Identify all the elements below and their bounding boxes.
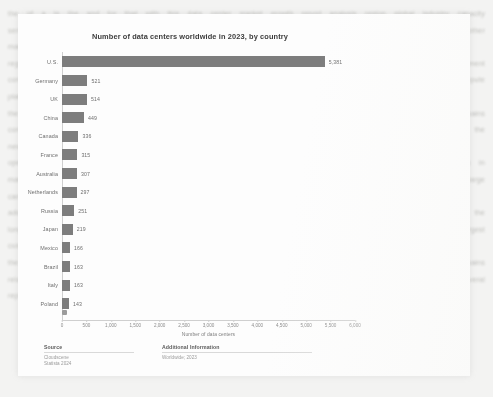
category-label: Netherlands <box>28 189 58 195</box>
bar <box>62 261 70 272</box>
bar-value-label: 336 <box>82 133 91 139</box>
additional-information-line-0: Worldwide; 2023 <box>162 355 312 361</box>
x-axis-tick: 2,000 <box>154 323 166 328</box>
x-axis-tick: 4,500 <box>276 323 288 328</box>
bar <box>62 242 70 253</box>
bar-row: Canada336 <box>62 127 91 145</box>
source-block: Source Cloudscene Statista 2024 <box>44 344 134 367</box>
bar <box>62 112 84 123</box>
category-label: Russia <box>41 208 58 214</box>
category-label: UK <box>50 96 58 102</box>
x-axis-tick: 1,500 <box>130 323 142 328</box>
chart-footer: Source Cloudscene Statista 2024 Addition… <box>44 344 454 374</box>
bar-value-label: 219 <box>77 226 86 232</box>
x-axis-tick: 5,500 <box>325 323 337 328</box>
category-label: Mexico <box>40 245 58 251</box>
category-label: China <box>43 115 58 121</box>
bar <box>62 168 77 179</box>
bar-value-label: 5,381 <box>329 59 342 65</box>
bar-value-label: 166 <box>74 245 83 251</box>
bar-value-label: 521 <box>91 78 100 84</box>
x-axis-tick: 4,000 <box>252 323 264 328</box>
bar <box>62 94 87 105</box>
category-label: U.S. <box>47 59 58 65</box>
bar-row: Brazil163 <box>62 258 83 276</box>
bar-chart-plot-area: U.S.5,381Germany521UK514China449Canada33… <box>62 52 355 320</box>
bar-row: Australia307 <box>62 165 90 183</box>
bar <box>62 187 77 198</box>
x-axis-tick: 1,000 <box>105 323 117 328</box>
category-label: Poland <box>41 301 58 307</box>
bar-value-label: 251 <box>78 208 87 214</box>
bar <box>62 149 77 160</box>
bar-value-label: 514 <box>91 96 100 102</box>
bar <box>62 224 73 235</box>
x-axis-label: Number of data centers <box>62 332 355 337</box>
bar <box>62 75 87 86</box>
bar-row: UK514 <box>62 90 100 108</box>
bar-row: China449 <box>62 109 97 127</box>
bar-row: Netherlands297 <box>62 183 89 201</box>
category-label: Brazil <box>44 264 58 270</box>
bar <box>62 205 74 216</box>
bar-row: Mexico166 <box>62 239 83 257</box>
category-label: France <box>41 152 58 158</box>
bar <box>62 280 70 291</box>
bar <box>62 56 325 67</box>
category-label: Germany <box>35 78 58 84</box>
source-heading: Source <box>44 344 134 353</box>
bar-value-label: 307 <box>81 171 90 177</box>
bar-row: Japan219 <box>62 220 86 238</box>
chart-title: Number of data centers worldwide in 2023… <box>92 32 288 41</box>
bar-row: Italy163 <box>62 276 83 294</box>
bar-value-label: 449 <box>88 115 97 121</box>
x-axis-tick: 3,000 <box>203 323 215 328</box>
bar <box>62 298 69 309</box>
bar-row: U.S.5,381 <box>62 53 342 71</box>
x-axis-tick: 3,500 <box>227 323 239 328</box>
category-label: Japan <box>43 226 58 232</box>
bar-value-label: 143 <box>73 301 82 307</box>
statista-logo-mark <box>62 310 67 315</box>
category-label: Canada <box>39 133 58 139</box>
bar <box>62 131 78 142</box>
x-axis-tick: 500 <box>83 323 91 328</box>
category-label: Australia <box>36 171 58 177</box>
bar-row: Germany521 <box>62 72 100 90</box>
additional-information-heading: Additional Information <box>162 344 312 353</box>
x-axis-tick: 0 <box>61 323 64 328</box>
additional-information-block: Additional Information Worldwide; 2023 <box>162 344 312 361</box>
category-label: Italy <box>48 282 58 288</box>
bar-value-label: 297 <box>81 189 90 195</box>
bar-value-label: 163 <box>74 282 83 288</box>
x-axis-tick: 6,000 <box>349 323 361 328</box>
x-axis-tick: 2,500 <box>178 323 190 328</box>
bar-row: France315 <box>62 146 90 164</box>
source-line-1: Statista 2024 <box>44 361 134 367</box>
chart-card: Number of data centers worldwide in 2023… <box>18 14 470 376</box>
x-axis-tick: 5,000 <box>300 323 312 328</box>
bar-value-label: 315 <box>81 152 90 158</box>
bar-row: Russia251 <box>62 202 87 220</box>
bar-value-label: 163 <box>74 264 83 270</box>
